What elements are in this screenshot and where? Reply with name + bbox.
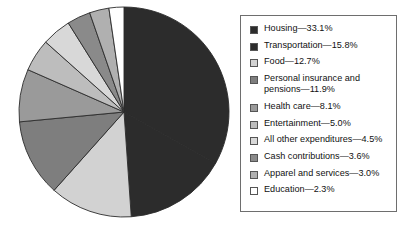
legend-box: Housing—33.1%Transportation—15.8%Food—12… — [240, 15, 397, 212]
legend-item-housing[interactable]: Housing—33.1% — [250, 23, 392, 34]
legend-label: Housing—33.1% — [264, 23, 333, 34]
legend-list: Housing—33.1%Transportation—15.8%Food—12… — [250, 23, 392, 196]
legend-item-cash-contributions[interactable]: Cash contributions—3.6% — [250, 151, 392, 162]
legend-swatch — [250, 43, 258, 51]
legend-item-food[interactable]: Food—12.7% — [250, 56, 392, 67]
legend-label: Health care—8.1% — [264, 101, 341, 112]
pie-slice-group — [19, 7, 229, 217]
legend-swatch — [250, 59, 258, 67]
pie-chart-figure: Housing—33.1%Transportation—15.8%Food—12… — [0, 0, 412, 225]
pie-chart-svg — [0, 0, 232, 225]
legend-label: Apparel and services—3.0% — [264, 168, 379, 179]
legend-item-personal-insurance-and-pensions[interactable]: Personal insurance and pensions—11.9% — [250, 73, 392, 96]
pie-chart-area — [0, 0, 232, 225]
legend-item-apparel-and-services[interactable]: Apparel and services—3.0% — [250, 168, 392, 179]
legend-label: Education—2.3% — [264, 184, 335, 195]
legend-item-health-care[interactable]: Health care—8.1% — [250, 101, 392, 112]
legend-swatch — [250, 137, 258, 145]
legend-label: Transportation—15.8% — [264, 40, 358, 51]
legend-swatch — [250, 26, 258, 34]
legend-label: Personal insurance and pensions—11.9% — [264, 73, 360, 96]
legend-label: All other expenditures—4.5% — [264, 134, 382, 145]
legend-item-education[interactable]: Education—2.3% — [250, 184, 392, 195]
legend-swatch — [250, 121, 258, 129]
legend-label: Entertainment—5.0% — [264, 118, 351, 129]
legend-item-all-other-expenditures[interactable]: All other expenditures—4.5% — [250, 134, 392, 145]
legend-label: Food—12.7% — [264, 56, 320, 67]
legend-swatch — [250, 154, 258, 162]
legend-swatch — [250, 187, 258, 195]
legend-item-transportation[interactable]: Transportation—15.8% — [250, 40, 392, 51]
legend-swatch — [250, 76, 258, 84]
legend-swatch — [250, 104, 258, 112]
legend-label: Cash contributions—3.6% — [264, 151, 370, 162]
legend-swatch — [250, 171, 258, 179]
legend-item-entertainment[interactable]: Entertainment—5.0% — [250, 118, 392, 129]
